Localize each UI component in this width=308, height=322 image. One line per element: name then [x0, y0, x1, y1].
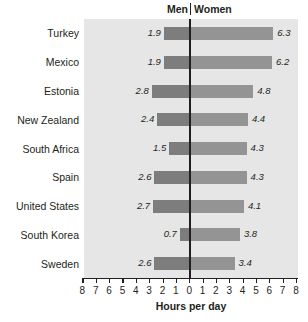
- zero-axis-line: [189, 19, 191, 278]
- x-axis-title: Hours per day: [84, 299, 298, 313]
- bar-men: [153, 200, 189, 213]
- x-axis-tick: [136, 278, 137, 283]
- category-label: Sweden: [0, 257, 79, 271]
- bar-women: [189, 56, 272, 69]
- category-label: South Korea: [0, 228, 79, 242]
- bar-women: [189, 113, 248, 126]
- bar-men: [154, 171, 189, 184]
- value-label-women: 4.4: [252, 111, 265, 126]
- category-label: Mexico: [0, 55, 79, 69]
- plot-area: 1.96.31.96.22.84.82.44.41.54.32.64.32.74…: [84, 19, 298, 278]
- x-axis-tick: [122, 278, 123, 283]
- bar-women: [189, 200, 244, 213]
- value-label-men: 2.6: [138, 169, 151, 184]
- value-label-women: 3.8: [244, 226, 257, 241]
- chart-row: 2.64.3: [84, 163, 298, 192]
- chart-row: 0.73.8: [84, 220, 298, 249]
- value-label-men: 2.7: [137, 198, 150, 213]
- chart-row: 1.54.3: [84, 134, 298, 163]
- chart-row: 2.74.1: [84, 192, 298, 221]
- value-label-women: 4.1: [248, 198, 261, 213]
- value-label-men: 1.9: [148, 25, 161, 40]
- chart-row: 2.44.4: [84, 105, 298, 134]
- category-label: New Zealand: [0, 113, 79, 127]
- chart-row: 2.63.4: [84, 249, 298, 278]
- bar-men: [164, 27, 189, 40]
- butterfly-bar-chart: Men Women 1.96.31.96.22.84.82.44.41.54.3…: [0, 0, 308, 322]
- x-axis-line: [84, 278, 298, 279]
- chart-row: 2.84.8: [84, 77, 298, 106]
- value-label-men: 0.7: [164, 226, 177, 241]
- series-header-divider: [190, 3, 191, 15]
- value-label-women: 4.3: [251, 169, 264, 184]
- x-axis-tick-label: 8: [287, 284, 305, 297]
- x-axis-tick: [216, 278, 217, 283]
- x-axis-tick: [269, 278, 270, 283]
- x-axis-tick: [189, 278, 190, 283]
- bar-men: [157, 113, 189, 126]
- series-header-women: Women: [194, 2, 274, 16]
- x-axis-tick: [96, 278, 97, 283]
- x-axis-tick: [149, 278, 150, 283]
- value-label-men: 2.6: [138, 255, 151, 270]
- x-axis-tick: [229, 278, 230, 283]
- value-label-women: 6.3: [277, 25, 290, 40]
- series-header-men: Men: [120, 2, 193, 16]
- x-axis-tick: [203, 278, 204, 283]
- x-axis-tick: [256, 278, 257, 283]
- x-axis-tick: [82, 278, 83, 283]
- value-label-men: 2.8: [136, 83, 149, 98]
- category-label: South Africa: [0, 142, 79, 156]
- bar-men: [169, 142, 189, 155]
- value-label-women: 3.4: [239, 255, 252, 270]
- value-label-women: 4.3: [251, 140, 264, 155]
- value-label-men: 1.5: [153, 140, 166, 155]
- x-axis-tick: [283, 278, 284, 283]
- bar-women: [189, 27, 273, 40]
- value-label-men: 1.9: [148, 54, 161, 69]
- bar-women: [189, 171, 246, 184]
- bar-women: [189, 257, 234, 270]
- value-label-women: 6.2: [276, 54, 289, 69]
- x-axis-tick: [109, 278, 110, 283]
- category-label: Spain: [0, 170, 79, 184]
- value-label-women: 4.8: [257, 83, 270, 98]
- category-label: United States: [0, 199, 79, 213]
- bar-men: [152, 85, 189, 98]
- x-axis-tick: [176, 278, 177, 283]
- category-label: Estonia: [0, 84, 79, 98]
- bar-women: [189, 85, 253, 98]
- value-label-men: 2.4: [141, 111, 154, 126]
- bar-women: [189, 228, 240, 241]
- x-axis-tick: [163, 278, 164, 283]
- category-label: Turkey: [0, 26, 79, 40]
- x-axis-tick: [296, 278, 297, 283]
- chart-row: 1.96.3: [84, 19, 298, 48]
- chart-row: 1.96.2: [84, 48, 298, 77]
- bar-men: [164, 56, 189, 69]
- bar-men: [180, 228, 189, 241]
- bar-women: [189, 142, 246, 155]
- x-axis-tick: [243, 278, 244, 283]
- bar-men: [154, 257, 189, 270]
